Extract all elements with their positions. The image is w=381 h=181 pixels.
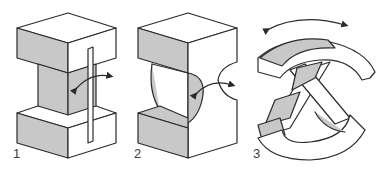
figure-3-cross-spring-pivot — [258, 20, 375, 160]
figure-label-2: 2 — [134, 146, 141, 161]
figure-1-leaf-flexure — [17, 13, 116, 158]
figure-label-3: 3 — [253, 146, 260, 161]
figure-2-notch-hinge — [138, 13, 237, 158]
figure-label-1: 1 — [13, 146, 20, 161]
diagram-canvas — [0, 0, 381, 181]
